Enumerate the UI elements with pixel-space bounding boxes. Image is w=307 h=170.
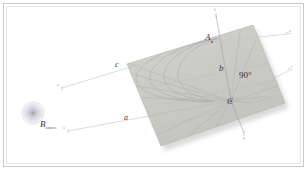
label-point-C: C: [227, 97, 233, 106]
label-light-source: Bsource: [40, 120, 57, 129]
label-segment-b: b: [219, 64, 224, 73]
tick-right-upper: e: [289, 28, 291, 33]
figure-root: A b C 90° c a Bsource x x b q e r: [0, 0, 307, 170]
label-ray-c: c: [115, 61, 119, 69]
tick-axis-top: b: [214, 7, 216, 12]
tick-ray-a-left: x: [63, 125, 65, 130]
label-point-A: A: [205, 33, 211, 42]
label-source-main: B: [40, 119, 46, 129]
tick-ray-c-left: x: [57, 82, 59, 87]
tick-axis-bottom: q: [243, 135, 245, 140]
tick-right-lower: r: [291, 64, 293, 69]
label-source-subscript: source: [46, 125, 57, 130]
diagram-canvas: [0, 0, 307, 170]
label-ray-a: a: [124, 114, 128, 122]
label-right-angle: 90°: [239, 70, 252, 80]
